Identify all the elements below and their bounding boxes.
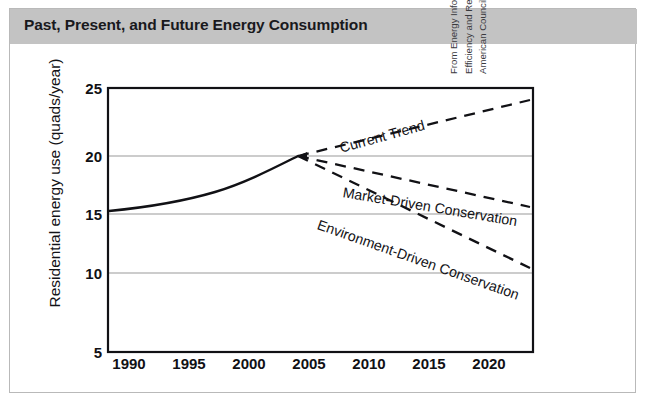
source-credit: From Energy Information Administration, … xyxy=(447,0,491,74)
source-credit-line-3: American Council for an Energy Efficient… xyxy=(476,0,491,74)
source-credit-line-2: Efficiency and Renewable Energy Division… xyxy=(462,0,477,74)
plot-area: Residential energy use (quads/year) 25 2… xyxy=(10,44,637,393)
figure-panel: Past, Present, and Future Energy Consump… xyxy=(9,8,636,393)
figure-title-bar: Past, Present, and Future Energy Consump… xyxy=(10,9,637,44)
source-credit-line-1: From Energy Information Administration, … xyxy=(447,0,462,74)
figure-title: Past, Present, and Future Energy Consump… xyxy=(24,16,368,34)
series-historical xyxy=(109,156,298,211)
